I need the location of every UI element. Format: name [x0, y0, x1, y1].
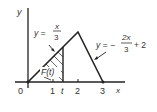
origin-point: [27, 81, 30, 84]
density-triangle-diagram: y x 0 1 t 2 3 y = x 3 y = − 2x 3 + 2 F(t…: [0, 0, 157, 112]
origin-label: 0: [18, 86, 23, 96]
svg-text:3: 3: [124, 45, 129, 54]
tick-label-t: t: [61, 86, 64, 96]
density-triangle: [28, 32, 103, 82]
tick-label-2: 2: [75, 86, 80, 96]
tick-label-3: 3: [100, 86, 105, 96]
svg-text:y =: y =: [33, 28, 46, 38]
left-line-equation: y = x 3: [33, 22, 61, 42]
right-line-arrowhead: [94, 56, 98, 60]
x-axis-label: x: [115, 86, 121, 95]
svg-text:2x: 2x: [121, 33, 131, 42]
svg-text:x: x: [54, 22, 60, 31]
svg-text:y = −: y = −: [95, 40, 115, 50]
y-axis-label: y: [16, 7, 22, 17]
F-label-pointer: [44, 77, 51, 80]
right-line-equation: y = − 2x 3 + 2: [95, 33, 146, 54]
svg-text:+ 2: + 2: [134, 40, 146, 50]
svg-text:3: 3: [54, 33, 59, 42]
x3-point: [102, 81, 105, 84]
F-t-label: F(t): [41, 67, 54, 77]
tick-label-1: 1: [50, 86, 55, 96]
